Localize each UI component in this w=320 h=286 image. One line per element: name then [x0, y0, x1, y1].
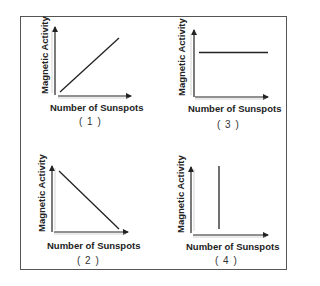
- panel-3-xlabel: Number of Sunspots: [188, 103, 281, 114]
- panel-4-axes: [191, 167, 268, 237]
- panel-2-axes: [52, 166, 128, 234]
- panel-1-xlabel: Number of Sunspots: [50, 102, 143, 113]
- panel-2-xlabel: Number of Sunspots: [47, 240, 140, 251]
- panel-2-caption: ( 2 ): [77, 255, 100, 266]
- panel-1-caption: ( 1 ): [79, 116, 102, 127]
- panel-4-caption: ( 4 ): [215, 255, 238, 266]
- panel-4-ylabel: Magnetic Activity: [175, 155, 186, 233]
- panel-3-axes: [191, 30, 268, 99]
- panel-4-xlabel: Number of Sunspots: [186, 241, 279, 252]
- panel-1-line: [60, 38, 119, 92]
- panel-2-line: [59, 171, 119, 229]
- panel-3-caption: ( 3 ): [217, 119, 240, 130]
- panel-1-ylabel: Magnetic Activity: [39, 16, 50, 94]
- panel-2-ylabel: Magnetic Activity: [36, 154, 47, 232]
- panel-3-ylabel: Magnetic Activity: [176, 18, 187, 96]
